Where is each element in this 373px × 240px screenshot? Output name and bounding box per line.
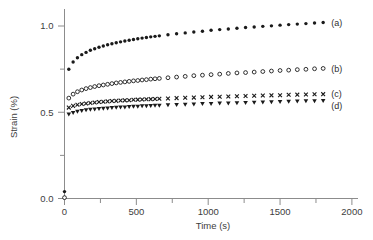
series-d-point [123, 105, 128, 109]
series-d-point [148, 104, 153, 108]
series-b-point [123, 80, 127, 84]
series-d-point [286, 100, 291, 104]
series-b-point [313, 67, 317, 71]
series-c-point [261, 94, 265, 98]
series-c-point [295, 93, 299, 97]
series-c-point [97, 100, 101, 104]
series-d-point [304, 99, 309, 103]
series-a-point [84, 51, 87, 54]
series-d-point [92, 107, 97, 111]
series-b-point [321, 67, 325, 71]
series-d-point [75, 110, 80, 114]
series-a-point [175, 32, 178, 35]
series-a-point [252, 25, 255, 28]
series-a-point [218, 28, 221, 31]
series-a-point [89, 49, 92, 52]
series-d-point [110, 106, 115, 110]
series-a-point [201, 29, 204, 32]
series-c-point [218, 95, 222, 99]
series-b-point [110, 82, 114, 86]
series-b-label: (b) [331, 64, 342, 74]
series-c-point [88, 101, 92, 105]
series-a-point [76, 56, 79, 59]
series-b-point [166, 76, 170, 80]
series-a-point [287, 23, 290, 26]
series-d-point [166, 103, 171, 107]
series-c-point [127, 98, 131, 102]
y-tick-label: 1.0 [40, 20, 53, 31]
series-b-point [287, 68, 291, 72]
series-a-point [244, 26, 247, 29]
series-a-point [93, 47, 96, 50]
series-b-point [67, 96, 71, 100]
x-tick-label: 2000 [341, 206, 362, 217]
series-c-point [110, 99, 114, 103]
series-d-point [174, 103, 179, 107]
series-a-point [192, 30, 195, 33]
series-b-point [80, 88, 84, 92]
series-d-point [153, 104, 158, 108]
series-c-point [175, 96, 179, 100]
series-d-point [209, 102, 214, 106]
series-c-point [132, 98, 136, 102]
series-a-point [71, 60, 74, 63]
series-c-point [67, 106, 71, 110]
series-b-point [235, 71, 239, 75]
series-a-point [149, 35, 152, 38]
series-d-point [278, 100, 283, 104]
series-a-point [278, 23, 281, 26]
series-a-point [140, 36, 143, 39]
series-d-point [84, 108, 89, 112]
series-c-point [278, 93, 282, 97]
series-b: (b) [63, 64, 343, 199]
series-a-point [166, 33, 169, 36]
series-a-point [235, 27, 238, 30]
strain-vs-time-chart: (a)(b)(c)(d) 05001000150020000.00.51.0Ti… [0, 0, 373, 240]
series-b-point [244, 71, 248, 75]
series-c-point [252, 94, 256, 98]
series-d-label: (d) [331, 101, 342, 111]
series-c-point [136, 98, 140, 102]
series-b-point [175, 75, 179, 79]
series-d-point [226, 101, 231, 105]
series-c-point [226, 95, 230, 99]
series-d-point [312, 99, 317, 103]
series-c-point [101, 100, 105, 104]
series-b-point [132, 79, 136, 83]
series-d-point [243, 101, 248, 105]
series-a-point [123, 39, 126, 42]
series-a-point [67, 68, 70, 71]
series-b-point [76, 90, 80, 94]
series-d-point [192, 102, 197, 106]
x-tick-label: 500 [128, 206, 144, 217]
series-d-point [118, 106, 123, 110]
series-a-point [158, 34, 161, 37]
series-b-point [136, 79, 140, 83]
series-b-point [127, 79, 131, 83]
series-a-point [261, 25, 264, 28]
series-b-point [93, 85, 97, 89]
series-c-point [201, 95, 205, 99]
series-c-point [235, 94, 239, 98]
series-b-point [71, 92, 75, 96]
series-d-point [79, 109, 84, 113]
series-a-point [184, 31, 187, 34]
series-c-point [183, 96, 187, 100]
series-b-point [140, 78, 144, 82]
series-c-point [93, 101, 97, 105]
series-b-point [218, 72, 222, 76]
series-d-point [135, 105, 140, 109]
series-c-point [80, 102, 84, 106]
series-b-point [295, 68, 299, 72]
series-d-point [217, 102, 222, 106]
series-c-point [321, 92, 325, 96]
creep-strain-chart-figure: (a)(b)(c)(d) 05001000150020000.00.51.0Ti… [0, 0, 373, 240]
x-axis-title: Time (s) [196, 220, 230, 231]
series-d-point [105, 106, 110, 110]
series-b-point [226, 72, 230, 76]
series-b-point [149, 77, 153, 81]
series-a-point [119, 40, 122, 43]
series-d-point [235, 101, 240, 105]
series-b-point [119, 81, 123, 85]
series-d-point [114, 106, 119, 110]
